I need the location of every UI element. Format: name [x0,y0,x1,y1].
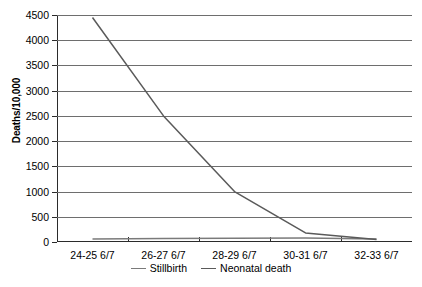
legend-label-stillbirth: Stillbirth [150,262,187,274]
plot-area: 050010001500200025003000350040004500 [57,15,412,242]
series-line-stillbirth [93,238,377,239]
x-axis-category-label: 28-29 6/7 [212,250,256,261]
y-axis-tick-label: 3500 [26,60,49,71]
legend-label-neonatal-death: Neonatal death [220,262,291,274]
y-axis-tick-label: 4500 [26,10,49,21]
y-axis-title: Deaths/10,000 [11,56,22,166]
chart-legend: Stillbirth Neonatal death [0,262,422,274]
legend-line-icon-stillbirth [131,268,146,269]
y-axis-tick [52,242,57,243]
y-axis-tick-label: 2500 [26,111,49,122]
y-axis-tick-label: 3000 [26,85,49,96]
x-axis-category-label: 26-27 6/7 [141,250,185,261]
y-axis-tick-label: 4000 [26,35,49,46]
legend-item-stillbirth: Stillbirth [131,262,187,274]
y-axis-tick-label: 2000 [26,136,49,147]
y-axis-tick-label: 0 [43,237,49,248]
y-axis-tick-label: 1500 [26,161,49,172]
x-axis-category-label: 32-33 6/7 [354,250,398,261]
line-chart: Deaths/10,000 05001000150020002500300035… [0,0,422,287]
y-axis-tick-label: 1000 [26,186,49,197]
x-axis-category-label: 30-31 6/7 [283,250,327,261]
legend-line-icon-neonatal-death [201,268,216,269]
series-line-neonatal-death [93,18,377,240]
legend-item-neonatal-death: Neonatal death [201,262,291,274]
series-lines [57,15,412,242]
y-axis-tick-label: 500 [31,212,49,223]
x-axis-category-label: 24-25 6/7 [70,250,114,261]
